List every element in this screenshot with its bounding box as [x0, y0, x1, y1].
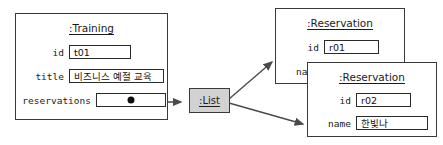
slot-training-title-label: title	[16, 71, 69, 82]
object-reservation-2-title: :Reservation	[308, 71, 436, 83]
object-reservation-2[interactable]: :Reservation id r02 name 한빛나	[307, 62, 437, 137]
link-list-to-reservation-2	[229, 103, 303, 124]
slot-training-title-value[interactable]: 비즈니스 예절 교육	[69, 69, 164, 83]
link-dot-icon	[128, 97, 135, 104]
slot-reservation-2-name-label: name	[308, 118, 356, 129]
slot-reservation-2-id-label: id	[308, 95, 356, 106]
slot-training-id: id t01	[16, 45, 169, 59]
slot-training-reservations-link[interactable]	[96, 93, 166, 107]
object-reservation-1-title: :Reservation	[276, 17, 404, 29]
slot-reservation-2-name: name 한빛나	[308, 116, 438, 130]
object-list-title: :List	[199, 95, 220, 106]
slot-reservation-1-id-value[interactable]: r01	[324, 40, 379, 54]
slot-reservation-1-id-label: id	[276, 42, 324, 53]
object-training[interactable]: :Training id t01 title 비즈니스 예절 교육 reserv…	[15, 13, 168, 120]
slot-reservation-2-name-value[interactable]: 한빛나	[356, 116, 428, 130]
slot-training-id-value[interactable]: t01	[69, 45, 131, 59]
object-diagram-canvas: :Training id t01 title 비즈니스 예절 교육 reserv…	[0, 0, 443, 145]
slot-reservation-2-id-value[interactable]: r02	[356, 93, 411, 107]
link-list-to-reservation-1	[229, 62, 272, 99]
slot-training-reservations-label: reservations	[16, 95, 96, 106]
slot-training-reservations: reservations	[16, 93, 169, 107]
slot-reservation-1-id: id r01	[276, 40, 406, 54]
object-training-title: :Training	[16, 22, 167, 34]
slot-training-id-label: id	[16, 47, 69, 58]
object-list[interactable]: :List	[189, 88, 230, 113]
slot-reservation-2-id: id r02	[308, 93, 438, 107]
slot-training-title: title 비즈니스 예절 교육	[16, 69, 169, 83]
